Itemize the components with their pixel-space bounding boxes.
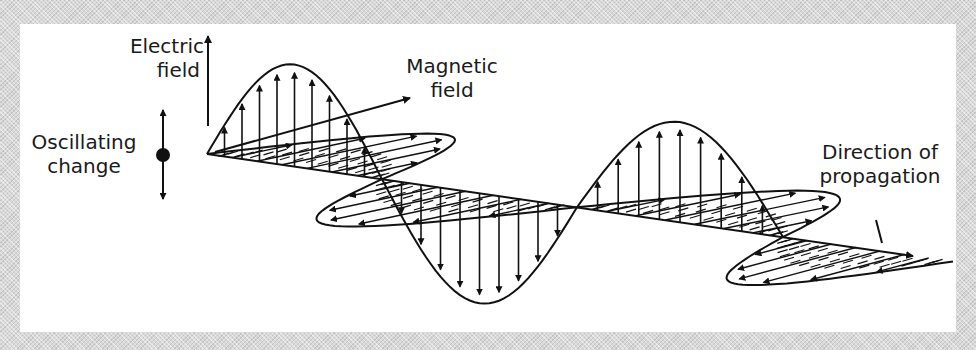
electric-field-label-line2: field bbox=[104, 58, 204, 82]
electric-field-label: Electric field bbox=[104, 34, 204, 82]
oscillating-change-icon bbox=[156, 110, 170, 199]
direction-of-propagation-label: Direction of propagation bbox=[806, 140, 954, 188]
magnetic-field-label-line2: field bbox=[392, 78, 512, 102]
propagation-tick bbox=[876, 220, 882, 243]
magnetic-field-label-line1: Magnetic bbox=[392, 54, 512, 78]
oscillating-change-label-line2: change bbox=[20, 154, 148, 178]
electric-field-label-line1: Electric bbox=[104, 34, 204, 58]
direction-label-line2: propagation bbox=[806, 164, 954, 188]
oscillating-change-label-line1: Oscillating bbox=[20, 130, 148, 154]
oscillating-change-label: Oscillating change bbox=[20, 130, 148, 178]
magnetic-field-label: Magnetic field bbox=[392, 54, 512, 102]
direction-label-line1: Direction of bbox=[806, 140, 954, 164]
